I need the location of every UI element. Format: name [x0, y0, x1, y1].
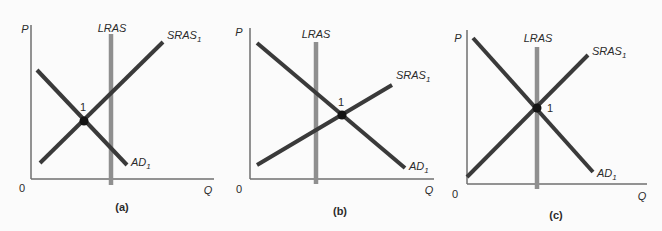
- ad-label-subscript: 1: [612, 173, 616, 182]
- equilibrium-point-label: 1: [338, 97, 344, 108]
- sras-curve: [40, 42, 163, 163]
- equilibrium-point-label: 1: [80, 102, 86, 113]
- sras-label-subscript: 1: [197, 35, 201, 44]
- sras-label: SRAS1: [167, 30, 201, 44]
- sras-label-subscript: 1: [622, 51, 626, 60]
- p-axis-label: P: [21, 24, 28, 35]
- panel-caption-b: (b): [333, 206, 347, 217]
- origin-label: 0: [19, 183, 25, 194]
- sras-label: SRAS1: [396, 70, 430, 84]
- sras-curve: [257, 85, 392, 165]
- q-axis-label: Q: [638, 191, 647, 202]
- plot-canvas: [225, 0, 445, 231]
- sras-label-text: SRAS: [592, 45, 622, 57]
- panel-caption-c: (c): [549, 210, 562, 221]
- origin-label: 0: [452, 189, 458, 200]
- ad-label-subscript: 1: [146, 162, 150, 171]
- ad-label-text: AD: [409, 160, 424, 172]
- ad-curve: [257, 43, 405, 168]
- diagram-panel-b: P LRAS SRAS1 AD1 1 0 Q (b): [225, 0, 445, 231]
- ad-label-subscript: 1: [424, 166, 428, 175]
- diagram-panel-c: P LRAS SRAS1 AD1 1 0 Q (c): [440, 0, 662, 231]
- p-axis-label: P: [454, 33, 461, 44]
- equilibrium-point: [80, 117, 89, 126]
- sras-label-subscript: 1: [426, 75, 430, 84]
- ad-label-text: AD: [131, 156, 146, 168]
- ad-label: AD1: [131, 157, 151, 171]
- equilibrium-point: [338, 111, 347, 120]
- ad-label: AD1: [597, 168, 617, 182]
- equilibrium-point-label: 1: [547, 103, 553, 114]
- q-axis-label: Q: [204, 185, 213, 196]
- equilibrium-point: [533, 104, 542, 113]
- origin-label: 0: [236, 184, 242, 195]
- q-axis-label: Q: [425, 185, 434, 196]
- sras-label-text: SRAS: [396, 69, 426, 81]
- sras-curve: [467, 55, 588, 177]
- lras-label: LRAS: [98, 23, 127, 34]
- ad-label-text: AD: [597, 167, 612, 179]
- sras-label-text: SRAS: [167, 29, 197, 41]
- diagram-panel-a: P LRAS SRAS1 AD1 1 0 Q (a): [0, 0, 225, 231]
- panel-caption-a: (a): [115, 202, 128, 213]
- sras-label: SRAS1: [592, 46, 626, 60]
- lras-label: LRAS: [524, 33, 553, 44]
- lras-label: LRAS: [302, 29, 331, 40]
- p-axis-label: P: [235, 27, 242, 38]
- ad-label: AD1: [409, 161, 429, 175]
